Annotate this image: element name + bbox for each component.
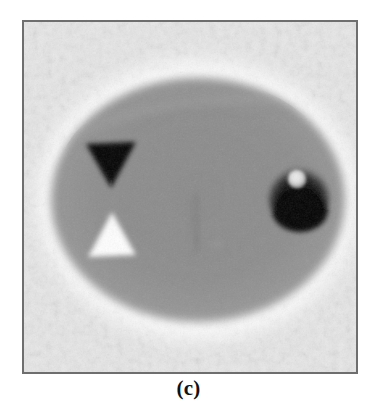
figure-caption: (c): [0, 376, 377, 401]
phantom-image-panel: [22, 20, 358, 374]
figure-root: (c): [0, 0, 377, 415]
phantom-image: [24, 22, 356, 372]
image-noise-overlay: [24, 22, 356, 372]
